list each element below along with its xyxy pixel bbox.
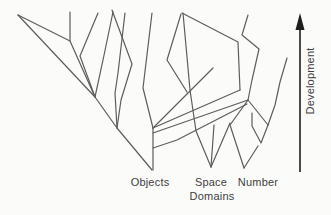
branch-line	[244, 146, 258, 168]
branches-group	[18, 10, 287, 170]
branch-line	[153, 90, 240, 128]
branch-line	[18, 15, 70, 41]
label-objects: Objects	[131, 176, 170, 188]
arrow-head	[296, 13, 305, 30]
branch-line	[112, 10, 132, 128]
label-space: Space	[195, 176, 227, 188]
branch-line	[182, 13, 240, 90]
branch-line	[18, 15, 152, 170]
branch-line	[248, 100, 268, 125]
label-domains: Domains	[190, 190, 235, 202]
branch-line	[242, 15, 259, 100]
figure-stage: Development Objects Space Number Domains	[0, 0, 331, 215]
branch-line	[252, 113, 268, 143]
branch-line	[183, 13, 211, 167]
branch-line	[230, 100, 248, 168]
branch-line	[153, 68, 213, 128]
branch-line	[268, 58, 287, 125]
branching-diagram-svg: Development Objects Space Number Domains	[0, 0, 331, 215]
label-number: Number	[238, 176, 278, 188]
branch-line	[143, 13, 153, 128]
development-axis-label: Development	[304, 47, 316, 114]
branch-line	[95, 12, 113, 97]
